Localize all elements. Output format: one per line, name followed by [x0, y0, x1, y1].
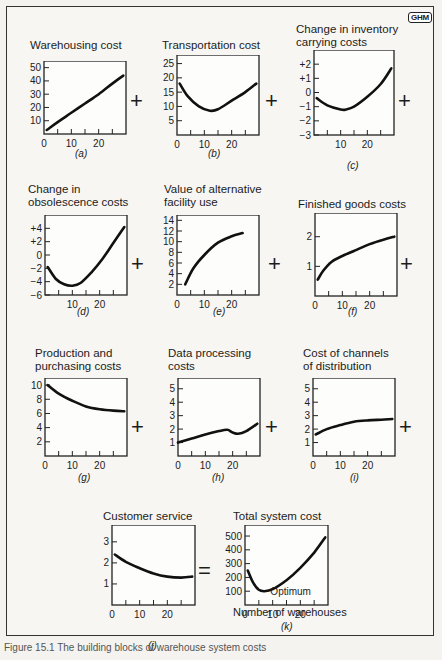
y-tick-label: 20 — [30, 102, 42, 113]
chart-title-line: Change in — [28, 183, 128, 196]
y-tick-label: 100 — [225, 586, 242, 597]
chart-title: Customer service — [103, 510, 192, 523]
chart-title-line: Cost of channels — [303, 347, 389, 360]
x-tick-label: 0 — [42, 460, 48, 471]
plot-area: 01020123 — [78, 525, 201, 627]
x-tick-label: 20 — [94, 460, 106, 471]
y-tick-label: +2 — [300, 59, 312, 70]
plot-area: 01020246810 — [11, 378, 133, 478]
chart-title-line: Total system cost — [233, 510, 321, 523]
chart-title: Value of alternativefacility use — [164, 183, 262, 209]
y-tick-label: 2 — [36, 436, 42, 447]
y-tick-label: 15 — [163, 87, 175, 98]
plot-frame — [45, 215, 127, 295]
y-tick-label: +2 — [31, 236, 43, 247]
plus-sign: + — [131, 416, 144, 438]
panel-label: (f) — [348, 306, 357, 317]
y-tick-label: 4 — [36, 422, 42, 433]
plot-area: 0102012 — [281, 213, 403, 318]
chart-title: Transportation cost — [162, 39, 260, 52]
y-tick-label: +4 — [31, 223, 43, 234]
plot-frame — [177, 55, 259, 135]
x-tick-label: 0 — [310, 460, 316, 471]
plot-frame — [314, 50, 394, 135]
equals-sign: = — [198, 560, 211, 582]
chart-title-line: Data processing — [168, 347, 251, 360]
x-tick-label: 20 — [162, 609, 174, 620]
optimum-annotation: Optimum — [270, 586, 311, 597]
y-tick-label: 5 — [169, 383, 175, 394]
y-tick-label: 6 — [168, 258, 174, 269]
chart-title: Finished goods costs — [298, 198, 406, 211]
y-tick-label: 25 — [163, 58, 175, 69]
y-tick-label: −2 — [31, 263, 43, 274]
x-tick-label: 0 — [41, 138, 47, 149]
panel-label: (a) — [75, 148, 87, 159]
chart-title-line: of distribution — [303, 360, 389, 373]
x-tick-label: 10 — [199, 299, 211, 310]
plot-area: 01020510152025 — [143, 55, 265, 157]
plot-frame — [112, 525, 195, 605]
y-tick-label: 50 — [30, 62, 42, 73]
x-tick-label: 0 — [174, 139, 180, 150]
y-tick-label: 8 — [168, 247, 174, 258]
y-tick-label: 2 — [169, 424, 175, 435]
y-tick-label: 2 — [304, 424, 310, 435]
plus-sign: + — [399, 416, 412, 438]
chart-title: Cost of channelsof distribution — [303, 347, 389, 373]
x-tick-label: 10 — [67, 460, 79, 471]
x-tick-label: 10 — [335, 460, 347, 471]
y-tick-label: 10 — [31, 380, 43, 391]
x-tick-label: 0 — [174, 299, 180, 310]
y-tick-label: 10 — [163, 236, 175, 247]
plot-area: 010201020304050 — [10, 61, 132, 156]
ghm-logo: GHM — [408, 12, 432, 23]
chart-title-line: purchasing costs — [35, 360, 121, 373]
chart-title-line: Finished goods costs — [298, 198, 406, 211]
x-tick-label: 10 — [200, 460, 212, 471]
y-tick-label: 2 — [168, 279, 174, 290]
y-tick-label: 20 — [163, 72, 175, 83]
plus-sign: + — [265, 416, 278, 438]
y-tick-label: 1 — [169, 437, 175, 448]
chart-title-line: Change in inventory — [296, 23, 398, 36]
panel-label: (g) — [78, 472, 90, 483]
chart-title-line: obsolescence costs — [28, 196, 128, 209]
x-tick-label: 0 — [312, 300, 318, 311]
plot-frame — [178, 378, 260, 456]
x-tick-label: 20 — [226, 299, 238, 310]
y-tick-label: 500 — [225, 531, 242, 542]
y-tick-label: 1 — [304, 437, 310, 448]
y-tick-label: 200 — [225, 572, 242, 583]
plot-area: 0102012345 — [144, 378, 266, 478]
plus-sign: + — [265, 90, 278, 112]
plot-area: 1020−3−2−10+1+2 — [280, 50, 400, 157]
y-tick-label: 300 — [225, 558, 242, 569]
y-tick-label: 0 — [305, 87, 311, 98]
y-tick-label: 2 — [103, 557, 109, 568]
plot-area: 010202468101214 — [143, 215, 265, 317]
y-tick-label: 0 — [36, 250, 42, 261]
panel-label: (c) — [347, 160, 359, 171]
x-axis-caption: Number of warehouses — [233, 606, 347, 618]
x-tick-label: 20 — [94, 299, 106, 310]
panel-label: (i) — [350, 472, 359, 483]
y-tick-label: 5 — [304, 383, 310, 394]
y-tick-label: −2 — [300, 115, 312, 126]
y-tick-label: 40 — [30, 75, 42, 86]
plus-sign: + — [398, 90, 411, 112]
plot-area: 1020−6−4−20+2+4 — [11, 215, 133, 317]
x-tick-label: 10 — [335, 139, 347, 150]
x-tick-label: 10 — [134, 609, 146, 620]
y-tick-label: 14 — [163, 215, 175, 226]
chart-title-line: Customer service — [103, 510, 192, 523]
plot-frame — [177, 215, 259, 295]
y-tick-label: 4 — [168, 268, 174, 279]
panel-label: (k) — [281, 621, 293, 632]
y-tick-label: +1 — [300, 73, 312, 84]
y-tick-label: −3 — [300, 130, 312, 141]
y-tick-label: 3 — [304, 410, 310, 421]
plus-sign: + — [268, 253, 281, 275]
y-tick-label: 10 — [163, 101, 175, 112]
x-tick-label: 20 — [227, 460, 239, 471]
